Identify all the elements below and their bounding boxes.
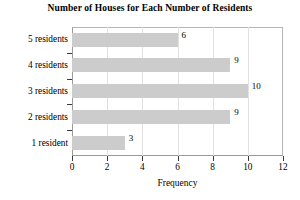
- bar-value-label: 6: [182, 31, 187, 40]
- x-axis-tick: [107, 156, 108, 161]
- chart-title: Number of Houses for Each Number of Resi…: [0, 3, 300, 13]
- y-axis-label: 3 residents: [28, 87, 68, 96]
- y-axis-tick: [67, 53, 72, 54]
- y-axis-tick: [67, 79, 72, 80]
- bar-value-label: 3: [129, 134, 134, 143]
- x-axis-tick: [283, 156, 284, 161]
- y-axis-label: 1 resident: [32, 139, 68, 148]
- y-axis-label: 4 residents: [28, 61, 68, 70]
- bar: [72, 58, 230, 72]
- x-axis-tick: [213, 156, 214, 161]
- x-axis-tick-label: 6: [166, 163, 190, 172]
- bar: [72, 110, 230, 124]
- x-axis-tick-label: 12: [271, 163, 295, 172]
- x-axis-tick-label: 2: [95, 163, 119, 172]
- x-axis-tick: [178, 156, 179, 161]
- y-axis-label: 2 residents: [28, 113, 68, 122]
- bar-value-label: 9: [234, 108, 239, 117]
- x-axis-tick: [248, 156, 249, 161]
- x-axis-tick-label: 4: [130, 163, 154, 172]
- bar: [72, 136, 125, 150]
- y-axis-tick: [67, 104, 72, 105]
- x-axis-tick-label: 0: [60, 163, 84, 172]
- bar: [72, 84, 248, 98]
- x-axis-tick-label: 8: [201, 163, 225, 172]
- x-axis-tick: [72, 156, 73, 161]
- y-axis-tick: [67, 130, 72, 131]
- x-axis-tick: [142, 156, 143, 161]
- y-axis-label: 5 residents: [28, 35, 68, 44]
- bar: [72, 33, 178, 47]
- bar-value-label: 9: [234, 56, 239, 65]
- x-axis-tick-label: 10: [236, 163, 260, 172]
- bar-value-label: 10: [252, 82, 261, 91]
- x-axis-title: Frequency: [72, 178, 283, 188]
